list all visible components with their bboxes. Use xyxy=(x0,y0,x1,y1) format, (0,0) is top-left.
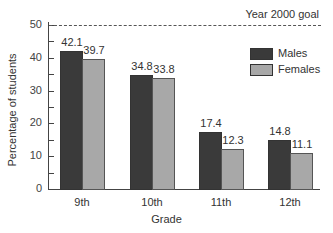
bar-males-9th xyxy=(60,51,83,190)
y-tick xyxy=(48,41,54,42)
y-tick xyxy=(48,123,54,124)
y-axis-title: Percentage of students xyxy=(6,50,18,170)
y-tick xyxy=(48,156,54,157)
y-tick xyxy=(48,74,54,75)
y-tick xyxy=(48,107,54,108)
y-tick-label: 30 xyxy=(22,84,42,96)
value-label: 39.7 xyxy=(79,44,109,56)
y-tick xyxy=(48,58,54,59)
bar-females-11th xyxy=(221,149,244,190)
y-tick-label: 50 xyxy=(22,18,42,30)
x-tick-label: 10th xyxy=(132,196,172,208)
legend-swatch-males xyxy=(250,48,273,60)
legend-label-females: Females xyxy=(278,63,320,75)
y-axis xyxy=(48,22,49,190)
x-tick-label: 12th xyxy=(270,196,310,208)
y-tick-label: 10 xyxy=(22,149,42,161)
bar-females-12th xyxy=(290,153,313,190)
goal-line xyxy=(49,25,321,26)
legend-label-males: Males xyxy=(278,47,307,59)
value-label: 11.1 xyxy=(287,138,317,150)
x-tick-label: 9th xyxy=(62,196,102,208)
value-label: 14.8 xyxy=(265,125,295,137)
value-label: 17.4 xyxy=(196,117,226,129)
bar-females-9th xyxy=(82,59,105,190)
bar-females-10th xyxy=(152,78,175,190)
y-tick-label: 40 xyxy=(22,51,42,63)
y-tick-label: 20 xyxy=(22,116,42,128)
value-label: 12.3 xyxy=(218,134,248,146)
y-tick xyxy=(48,189,54,190)
value-label: 33.8 xyxy=(149,63,179,75)
y-tick xyxy=(48,140,54,141)
y-tick-label: 0 xyxy=(22,182,42,194)
legend-swatch-females xyxy=(250,64,273,76)
x-axis-title: Grade xyxy=(0,213,333,225)
y-tick xyxy=(48,173,54,174)
x-tick-label: 11th xyxy=(201,196,241,208)
y-tick xyxy=(48,91,54,92)
bar-males-10th xyxy=(130,75,153,190)
goal-label: Year 2000 goal xyxy=(245,8,319,20)
